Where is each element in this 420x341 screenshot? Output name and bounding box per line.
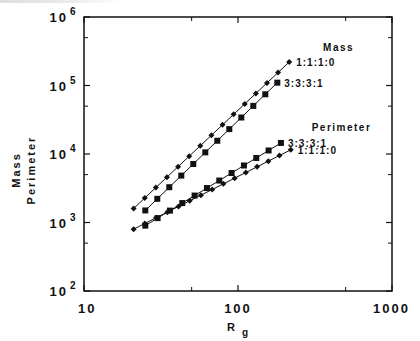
axis-ticks — [84, 17, 392, 291]
diamond-marker — [131, 226, 137, 232]
y-axis-title-mass: Mass — [10, 152, 22, 188]
diamond-marker — [254, 164, 260, 170]
square-marker — [216, 178, 222, 184]
square-marker — [278, 140, 284, 146]
diamond-marker — [265, 158, 271, 164]
square-marker — [238, 115, 244, 121]
square-marker — [253, 155, 259, 161]
y-tick-label-exponent: 5 — [70, 75, 76, 86]
x-tick-label: 100 — [224, 301, 252, 316]
square-marker — [154, 196, 160, 202]
square-marker — [274, 80, 280, 86]
square-marker — [190, 161, 196, 167]
log-log-chart: 102103104105106 101001000 1:1:1:03:3:3:1… — [0, 0, 420, 341]
diamond-marker — [209, 186, 215, 192]
y-tick-label-base: 10 — [50, 216, 68, 231]
group-label-perimeter: Perimeter — [312, 122, 372, 133]
x-axis-title: R g — [227, 321, 248, 338]
x-axis-title-subscript: g — [242, 327, 248, 338]
series-end-label: 1:1:1:0 — [296, 57, 335, 68]
series-end-label: 3:3:3:1 — [284, 78, 323, 89]
series-end-label: 1:1:1:0 — [298, 145, 337, 156]
x-axis-title-main: R — [227, 321, 237, 333]
x-tick-label: 1000 — [373, 301, 410, 316]
square-marker — [202, 149, 208, 155]
y-tick-label-base: 10 — [50, 10, 68, 25]
square-marker — [241, 162, 247, 168]
y-tick-label-base: 10 — [50, 147, 68, 162]
x-tick-labels: 101001000 — [78, 301, 410, 316]
y-tick-label-exponent: 4 — [70, 143, 76, 154]
diamond-marker — [243, 169, 249, 175]
square-marker — [178, 173, 184, 179]
diamond-marker — [187, 198, 193, 204]
y-axis-title-perimeter: Perimeter — [25, 136, 37, 205]
diamond-marker — [277, 153, 283, 159]
group-label-mass: Mass — [323, 42, 354, 53]
series-annotations: 1:1:1:03:3:3:13:3:3:11:1:1:0MassPerimete… — [284, 42, 371, 156]
y-tick-label-exponent: 3 — [70, 212, 76, 223]
y-tick-label-base: 10 — [50, 284, 68, 299]
y-axis-title: Mass Perimeter — [10, 136, 37, 205]
square-marker — [214, 138, 220, 144]
plot-border — [84, 17, 392, 291]
square-marker — [142, 207, 148, 213]
square-marker — [266, 147, 272, 153]
data-series — [131, 59, 294, 232]
y-tick-label-base: 10 — [50, 79, 68, 94]
square-marker — [229, 170, 235, 176]
square-marker — [166, 184, 172, 190]
square-marker — [226, 126, 232, 132]
series-mass-3-3-3-1 — [142, 80, 280, 214]
square-marker — [250, 103, 256, 109]
x-tick-label: 10 — [78, 301, 96, 316]
diamond-marker — [232, 175, 238, 181]
series-perimeter-3-3-3-1 — [142, 140, 284, 229]
y-tick-label-exponent: 2 — [70, 280, 76, 291]
square-marker — [204, 185, 210, 191]
y-tick-labels: 102103104105106 — [50, 6, 76, 299]
plot-frame — [84, 17, 392, 291]
square-marker — [262, 91, 268, 97]
y-tick-label-exponent: 6 — [70, 6, 76, 17]
